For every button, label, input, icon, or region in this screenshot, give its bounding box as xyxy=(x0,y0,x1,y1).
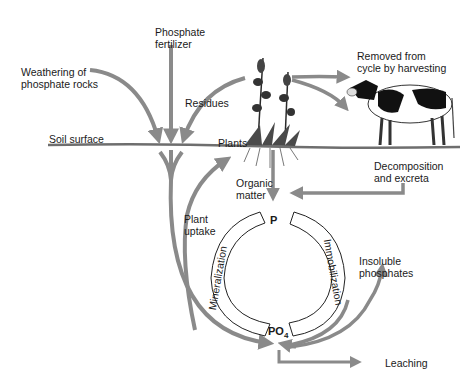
node-po4: PO4 xyxy=(268,325,288,342)
decomposition-arrow xyxy=(295,183,403,193)
label-organic-line2: matter xyxy=(236,189,273,201)
label-plants: Plants xyxy=(218,137,247,149)
label-decomposition-line2: and excreta xyxy=(374,172,443,184)
label-decomposition-line1: Decomposition xyxy=(374,160,443,172)
label-insoluble-line1: Insoluble xyxy=(359,255,413,267)
cow-illustration xyxy=(347,80,454,145)
label-leaching: Leaching xyxy=(385,357,428,369)
label-insoluble: Insoluble phosphates xyxy=(359,255,413,279)
label-removed: Removed from cycle by harvesting xyxy=(357,50,446,74)
label-plant-uptake: Plant uptake xyxy=(184,213,216,237)
label-weathering: Weathering of phosphate rocks xyxy=(21,66,98,90)
node-po4-text: PO xyxy=(268,325,284,337)
label-uptake-line1: Plant xyxy=(184,213,216,225)
label-fertilizer-line2: fertilizer xyxy=(155,38,205,50)
weathering-arrow xyxy=(90,70,158,138)
label-removed-line2: cycle by harvesting xyxy=(357,62,446,74)
label-weathering-line1: Weathering of xyxy=(21,66,98,78)
label-fertilizer-line1: Phosphate xyxy=(155,26,205,38)
label-insoluble-line2: phosphates xyxy=(359,267,413,279)
label-removed-line1: Removed from xyxy=(357,50,446,62)
label-fertilizer: Phosphate fertilizer xyxy=(155,26,205,50)
label-organic-line1: Organic xyxy=(236,177,273,189)
label-decomposition: Decomposition and excreta xyxy=(374,160,443,184)
leaching-arrow xyxy=(279,350,357,362)
label-uptake-line2: uptake xyxy=(184,225,216,237)
label-organic-matter: Organic matter xyxy=(236,177,273,201)
node-po4-subscript: 4 xyxy=(284,331,288,340)
harvest-arrow-bottom xyxy=(292,80,345,107)
label-residues: Residues xyxy=(185,97,229,109)
node-p: P xyxy=(270,214,277,226)
label-weathering-line2: phosphate rocks xyxy=(21,78,98,90)
harvest-arrow-top xyxy=(292,77,345,78)
label-soil-surface: Soil surface xyxy=(49,133,104,145)
